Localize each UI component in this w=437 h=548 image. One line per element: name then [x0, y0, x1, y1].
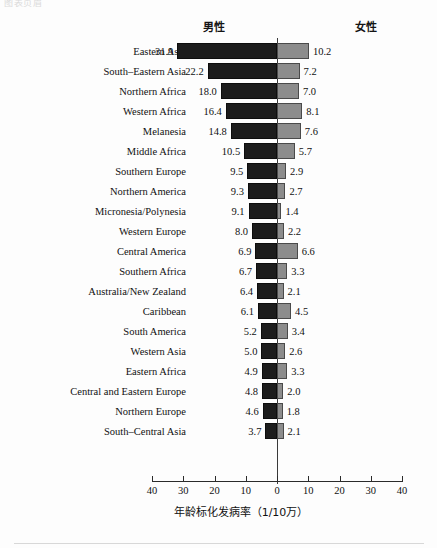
bar-female: [277, 363, 287, 379]
bar-male: [247, 163, 277, 179]
bar-female: [277, 343, 285, 359]
chart-page: 图表页眉 男性 女性 Eastern Asia31.910.2South–Eas…: [0, 0, 437, 548]
value-label-male: 4.9: [226, 364, 258, 379]
category-label: Southern Europe: [6, 164, 186, 179]
bar-male: [263, 403, 277, 419]
category-label: Melanesia: [6, 124, 186, 139]
chart-row: Western Africa16.48.1: [0, 102, 437, 122]
category-label: Caribbean: [6, 304, 186, 319]
category-label: Northern Africa: [6, 84, 186, 99]
bar-male: [221, 83, 277, 99]
x-axis-tick: [183, 476, 184, 482]
value-label-female: 4.5: [295, 304, 308, 319]
chart-row: Northern Europe4.61.8: [0, 402, 437, 422]
value-label-male: 3.7: [229, 424, 261, 439]
value-label-male: 31.9: [141, 44, 173, 59]
column-header-female: 女性: [355, 18, 377, 34]
bar-female: [277, 123, 301, 139]
value-label-male: 4.8: [226, 384, 258, 399]
value-label-female: 2.2: [288, 224, 301, 239]
chart-row: Melanesia14.87.6: [0, 122, 437, 142]
value-label-female: 7.6: [305, 124, 318, 139]
chart-row: Central and Eastern Europe4.82.0: [0, 382, 437, 402]
chart-row: Central America6.96.6: [0, 242, 437, 262]
bar-female: [277, 163, 286, 179]
x-axis-tick-label: 20: [200, 485, 230, 496]
bar-male: [256, 263, 277, 279]
x-axis-tick: [152, 476, 153, 482]
category-label: Australia/New Zealand: [6, 284, 186, 299]
x-axis-tick-label: 40: [137, 485, 167, 496]
value-label-male: 5.0: [225, 344, 257, 359]
x-axis-tick-label: 10: [231, 485, 261, 496]
chart-row: Southern Europe9.52.9: [0, 162, 437, 182]
category-label: Central America: [6, 244, 186, 259]
bar-female: [277, 203, 281, 219]
value-label-male: 10.5: [208, 144, 240, 159]
x-axis-tick: [340, 476, 341, 482]
chart-row: South–Central Asia3.72.1: [0, 422, 437, 442]
bar-male: [261, 323, 277, 339]
bar-female: [277, 303, 291, 319]
value-label-male: 6.7: [220, 264, 252, 279]
x-axis-tick: [402, 476, 403, 482]
x-axis-tick: [277, 476, 278, 482]
category-label: Middle Africa: [6, 144, 186, 159]
bar-male: [244, 143, 277, 159]
value-label-male: 18.0: [185, 84, 217, 99]
value-label-male: 22.2: [172, 64, 204, 79]
chart-row: South–Eastern Asia22.27.2: [0, 62, 437, 82]
x-axis-tick-label: 40: [387, 485, 417, 496]
bar-male: [252, 223, 277, 239]
value-label-male: 4.6: [227, 404, 259, 419]
category-label: Western Asia: [6, 344, 186, 359]
value-label-female: 1.8: [287, 404, 300, 419]
value-label-female: 7.0: [303, 84, 316, 99]
value-label-female: 2.6: [289, 344, 302, 359]
bar-male: [255, 243, 277, 259]
bar-female: [277, 83, 299, 99]
chart-row: Caribbean6.14.5: [0, 302, 437, 322]
value-label-female: 3.4: [292, 324, 305, 339]
value-label-female: 3.3: [291, 364, 304, 379]
category-label: Southern Africa: [6, 264, 186, 279]
bar-female: [277, 143, 295, 159]
x-axis-tick-label: 0: [262, 485, 292, 496]
bar-female: [277, 403, 283, 419]
diverging-bar-chart: 男性 女性 Eastern Asia31.910.2South–Eastern …: [0, 0, 437, 548]
value-label-female: 7.2: [304, 64, 317, 79]
value-label-female: 2.9: [290, 164, 303, 179]
category-label: South–Central Asia: [6, 424, 186, 439]
bar-male: [265, 423, 277, 439]
bar-male: [248, 183, 277, 199]
footer-rule: [14, 543, 424, 544]
category-label: Central and Eastern Europe: [6, 384, 186, 399]
bar-male: [262, 383, 277, 399]
chart-row: Eastern Asia31.910.2: [0, 42, 437, 62]
bar-male: [258, 303, 277, 319]
bar-male: [249, 203, 277, 219]
chart-row: Micronesia/Polynesia9.11.4: [0, 202, 437, 222]
chart-row: Northern Africa18.07.0: [0, 82, 437, 102]
bar-female: [277, 283, 284, 299]
x-axis-tick: [371, 476, 372, 482]
value-label-male: 9.3: [212, 184, 244, 199]
value-label-female: 1.4: [285, 204, 298, 219]
category-label: Western Africa: [6, 104, 186, 119]
bar-female: [277, 323, 288, 339]
chart-row: Middle Africa10.55.7: [0, 142, 437, 162]
bar-male: [261, 343, 277, 359]
category-label: South America: [6, 324, 186, 339]
bar-female: [277, 243, 298, 259]
value-label-male: 6.1: [222, 304, 254, 319]
value-label-female: 6.6: [302, 244, 315, 259]
bar-male: [262, 363, 277, 379]
bar-female: [277, 103, 302, 119]
x-axis-line: [153, 481, 403, 482]
bar-female: [277, 43, 309, 59]
value-label-male: 14.8: [195, 124, 227, 139]
bar-female: [277, 63, 300, 79]
bar-male: [208, 63, 277, 79]
x-axis: 40302010010203040 年龄标化发病率（1/10万）: [0, 481, 437, 541]
x-axis-tick: [246, 476, 247, 482]
